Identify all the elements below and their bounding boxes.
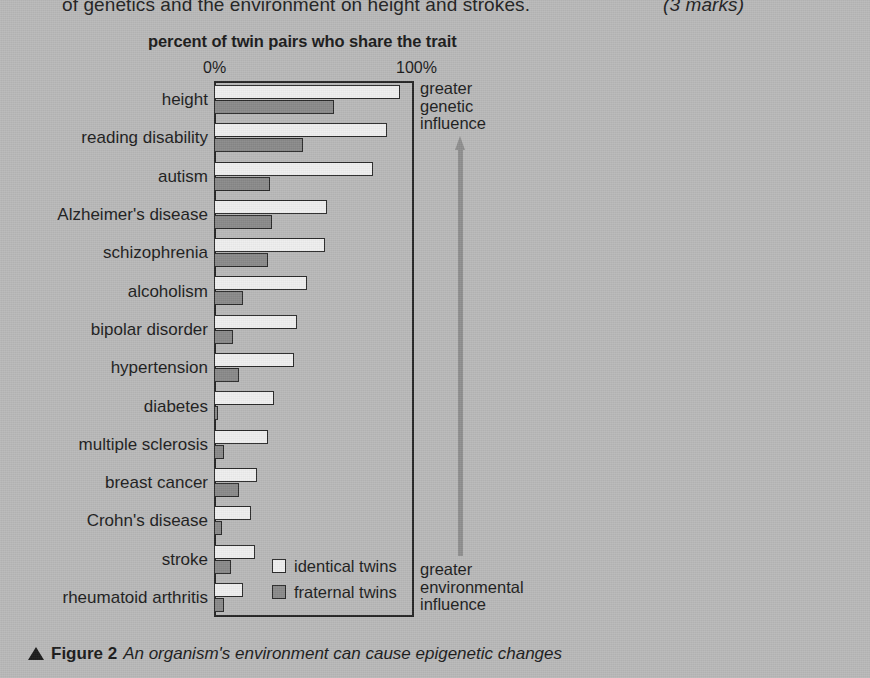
bar-identical	[214, 353, 294, 367]
bar-identical	[214, 162, 373, 176]
arrow-shaft	[458, 148, 463, 556]
category-label: hypertension	[111, 358, 208, 378]
annotation-greater-genetic-influence: greater genetic influence	[420, 80, 486, 133]
category-label: autism	[158, 167, 208, 187]
bar-identical	[214, 545, 255, 559]
bar-identical	[214, 200, 327, 214]
bar-row: Crohn's disease	[214, 502, 414, 540]
bar-row: alcoholism	[214, 272, 414, 310]
bar-fraternal	[214, 291, 243, 305]
bar-identical	[214, 506, 251, 520]
annotation-greater-environmental-influence: greater environmental influence	[420, 561, 524, 614]
category-label: bipolar disorder	[91, 320, 208, 340]
caption-figure-label: Figure 2	[51, 644, 117, 663]
legend-item: identical twins	[272, 553, 397, 579]
bar-fraternal	[214, 368, 239, 382]
bar-fraternal	[214, 330, 233, 344]
x-tick-100: 100%	[396, 59, 437, 77]
bar-row: hypertension	[214, 349, 414, 387]
bar-fraternal	[214, 100, 334, 114]
bar-identical	[214, 315, 297, 329]
bar-identical	[214, 276, 307, 290]
twin-concordance-bar-chart: percent of twin pairs who share the trai…	[0, 0, 870, 630]
bar-fraternal	[214, 177, 270, 191]
bar-row: height	[214, 81, 414, 119]
category-label: Crohn's disease	[87, 511, 208, 531]
bar-identical	[214, 468, 257, 482]
bar-row: breast cancer	[214, 464, 414, 502]
bar-fraternal	[214, 138, 303, 152]
category-label: breast cancer	[105, 473, 208, 493]
legend-label: identical twins	[294, 557, 397, 576]
annotation-genetic-line2: genetic	[420, 98, 486, 116]
annotation-genetic-line1: greater	[420, 80, 486, 98]
bar-fraternal	[214, 253, 268, 267]
bar-fraternal	[214, 560, 231, 574]
category-label: reading disability	[81, 128, 208, 148]
category-label: Alzheimer's disease	[57, 205, 208, 225]
bar-identical	[214, 85, 400, 99]
bar-identical	[214, 430, 268, 444]
legend-item: fraternal twins	[272, 579, 397, 605]
bar-fraternal	[214, 215, 272, 229]
up-arrow-icon	[455, 136, 466, 556]
category-label: stroke	[162, 550, 208, 570]
x-tick-0: 0%	[203, 59, 226, 77]
bar-fraternal	[214, 445, 224, 459]
bar-identical	[214, 583, 243, 597]
bar-identical	[214, 391, 274, 405]
annotation-environmental-line2: environmental	[420, 579, 524, 597]
up-triangle-icon	[28, 647, 44, 660]
bar-row: Alzheimer's disease	[214, 196, 414, 234]
category-label: rheumatoid arthritis	[62, 588, 208, 608]
legend-swatch-identical	[272, 559, 286, 573]
category-label: height	[162, 90, 208, 110]
bar-row: diabetes	[214, 387, 414, 425]
bar-fraternal	[214, 406, 218, 420]
legend-swatch-fraternal	[272, 585, 286, 599]
bar-rows: heightreading disabilityautismAlzheimer'…	[214, 81, 414, 617]
category-label: diabetes	[144, 397, 208, 417]
legend-label: fraternal twins	[294, 583, 397, 602]
bar-identical	[214, 123, 387, 137]
category-label: multiple sclerosis	[79, 435, 208, 455]
bar-fraternal	[214, 483, 239, 497]
bar-identical	[214, 238, 325, 252]
annotation-environmental-line1: greater	[420, 561, 524, 579]
bar-fraternal	[214, 598, 224, 612]
chart-legend: identical twinsfraternal twins	[272, 553, 397, 605]
annotation-genetic-line3: influence	[420, 115, 486, 133]
annotation-environmental-line3: influence	[420, 596, 524, 614]
bar-row: schizophrenia	[214, 234, 414, 272]
bar-row: autism	[214, 158, 414, 196]
caption-text: An organism's environment can cause epig…	[123, 644, 562, 663]
bar-row: multiple sclerosis	[214, 426, 414, 464]
category-label: alcoholism	[128, 282, 208, 302]
bar-fraternal	[214, 521, 222, 535]
bar-row: reading disability	[214, 119, 414, 157]
figure-caption: Figure 2An organism's environment can ca…	[28, 644, 870, 672]
bar-row: bipolar disorder	[214, 311, 414, 349]
chart-axis-title: percent of twin pairs who share the trai…	[148, 32, 457, 51]
category-label: schizophrenia	[103, 243, 208, 263]
